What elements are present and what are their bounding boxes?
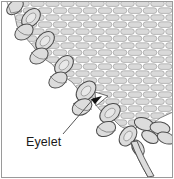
eyelet-figure: Eyelet: [0, 0, 174, 179]
eyelet-illustration: Eyelet: [0, 0, 174, 179]
eyelet-label: Eyelet: [26, 135, 62, 149]
